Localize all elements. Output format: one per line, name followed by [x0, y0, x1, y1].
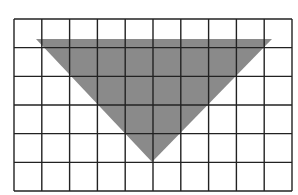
grid-figure [0, 0, 298, 195]
grid-diagram [0, 0, 298, 195]
